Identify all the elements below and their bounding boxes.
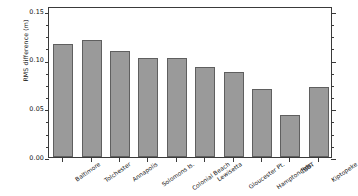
y-axis-tick-label: 0.15	[18, 9, 44, 15]
y-axis-major-tick	[331, 13, 336, 14]
x-axis-tick-labels: BaltimoreTolchesterAnnapolisSolomons Is.…	[48, 159, 332, 196]
bar	[167, 58, 187, 157]
plot-area	[48, 7, 332, 158]
y-axis-minor-tick	[331, 98, 334, 99]
x-axis-tick-label: Tolchester	[103, 161, 131, 183]
bar	[252, 89, 272, 157]
y-axis-major-tick	[331, 110, 336, 111]
bar	[110, 51, 130, 157]
y-axis-major-tick	[331, 62, 336, 63]
bar	[82, 40, 102, 157]
y-axis-minor-tick	[331, 122, 334, 123]
y-axis-minor-tick	[331, 147, 334, 148]
bar	[280, 115, 300, 157]
bar	[138, 58, 158, 157]
bar	[309, 87, 329, 157]
x-axis-tick-label: CBBT	[299, 161, 316, 175]
y-axis-minor-tick	[331, 74, 334, 75]
y-axis-minor-tick	[331, 86, 334, 87]
x-axis-tick-label: Annapolis	[131, 161, 158, 183]
y-axis-tick-label: 0.00	[18, 155, 44, 161]
y-axis-minor-tick	[331, 49, 334, 50]
bar	[53, 44, 73, 157]
y-axis-tick-label: 0.05	[18, 106, 44, 112]
y-axis-minor-tick	[331, 37, 334, 38]
y-axis-minor-tick	[331, 25, 334, 26]
bar-series	[49, 8, 331, 157]
x-axis-tick-label: Baltimore	[74, 161, 101, 183]
bar	[195, 67, 215, 157]
y-axis-tick-label: 0.10	[18, 57, 44, 63]
bar	[224, 72, 244, 157]
x-axis-tick-label: Kiptopeke	[330, 161, 358, 183]
y-axis-minor-tick	[331, 135, 334, 136]
x-axis-tick-label: Solomons Is.	[161, 161, 195, 188]
